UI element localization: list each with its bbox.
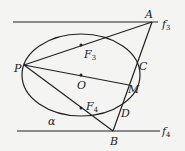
point-F4 [80, 107, 83, 110]
segment-PB [24, 65, 113, 131]
label-A: A [144, 8, 153, 21]
label-P: P [13, 62, 22, 75]
geometry-diagram: A f3 F3 P C O M F4 D α B f4 [0, 0, 185, 151]
label-D: D [120, 107, 130, 120]
label-C: C [139, 60, 148, 73]
label-M: M [127, 83, 140, 96]
label-f3: f3 [161, 18, 171, 32]
label-O: O [77, 79, 86, 92]
label-B: B [109, 135, 118, 148]
label-F4: F4 [85, 100, 99, 114]
label-F3: F3 [83, 48, 96, 62]
label-alpha: α [48, 115, 56, 128]
point-O [80, 74, 83, 77]
segment-AB [113, 22, 152, 131]
point-F3 [80, 44, 83, 47]
label-f4: f4 [161, 125, 171, 139]
